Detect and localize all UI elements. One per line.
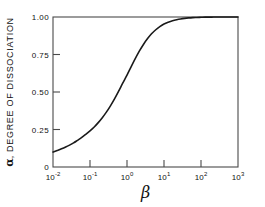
- axes-frame: [53, 17, 238, 167]
- y-tick-marks: [53, 55, 60, 130]
- plot-frame: [53, 17, 238, 167]
- data-curve: [53, 17, 238, 152]
- plot-svg: [0, 0, 265, 207]
- figure-panel: α, DEGREE OF DISSOCIATION 1.00 0.75 0.50…: [0, 0, 265, 207]
- x-tick-marks: [90, 160, 201, 167]
